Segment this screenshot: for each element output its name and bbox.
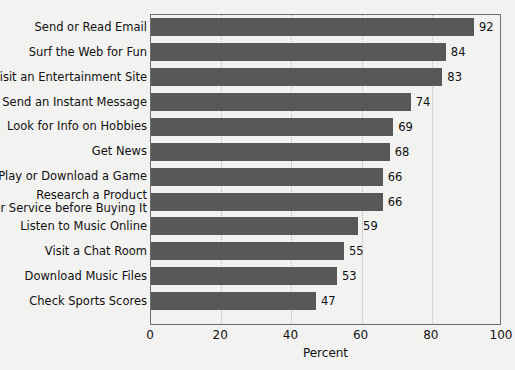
x-tick-label: 80	[423, 327, 438, 343]
category-label: Send or Read Email	[35, 14, 148, 40]
category-label-line: Visit a Chat Room	[45, 245, 147, 258]
bar	[151, 118, 393, 136]
bar-row: Check Sports Scores47	[151, 288, 500, 314]
category-label-line: Check Sports Scores	[29, 295, 147, 308]
bar-row: Look for Info on Hobbies69	[151, 114, 500, 140]
bar-row: Research a Productor Service before Buyi…	[151, 189, 500, 215]
bar-value-label: 66	[388, 193, 403, 211]
bar	[151, 292, 316, 310]
bar-row: Visit an Entertainment Site83	[151, 64, 500, 90]
x-tick-label: 100	[490, 327, 513, 343]
bar	[151, 143, 390, 161]
category-label: Look for Info on Hobbies	[7, 114, 147, 140]
x-tick-label: 60	[353, 327, 368, 343]
x-tick-label: 40	[283, 327, 298, 343]
bar-value-label: 84	[451, 43, 466, 61]
category-label-line: Download Music Files	[25, 270, 147, 283]
category-label-line: Visit an Entertainment Site	[0, 71, 147, 84]
bar-value-label: 83	[447, 68, 462, 86]
x-axis-tick-labels: 020406080100	[150, 327, 501, 345]
bar	[151, 267, 337, 285]
bar	[151, 193, 383, 211]
bar-row: Play or Download a Game66	[151, 164, 500, 190]
bar-value-label: 66	[388, 168, 403, 186]
bar-value-label: 53	[342, 267, 357, 285]
category-label: Listen to Music Online	[20, 213, 147, 239]
category-label-line: Listen to Music Online	[20, 220, 147, 233]
category-label: Visit a Chat Room	[45, 238, 147, 264]
category-label-line: Send an Instant Message	[2, 96, 147, 109]
bar-value-label: 92	[479, 18, 494, 36]
category-label: Send an Instant Message	[2, 89, 147, 115]
category-label-line: Send or Read Email	[35, 21, 148, 34]
bar-value-label: 55	[349, 242, 364, 260]
bar-value-label: 69	[398, 118, 413, 136]
bar	[151, 217, 358, 235]
bar-value-label: 47	[321, 292, 336, 310]
plot-area: Send or Read Email92Surf the Web for Fun…	[150, 14, 501, 325]
bar-row: Send or Read Email92	[151, 14, 500, 40]
category-label-line: Research a Product	[36, 189, 147, 202]
category-label-line: Get News	[92, 145, 147, 158]
bar-value-label: 74	[416, 93, 431, 111]
bar-row: Surf the Web for Fun84	[151, 39, 500, 65]
bar-value-label: 68	[395, 143, 410, 161]
category-label-line: Look for Info on Hobbies	[7, 120, 147, 133]
category-label-line: Play or Download a Game	[0, 170, 147, 183]
category-label: Get News	[92, 139, 147, 165]
bar	[151, 168, 383, 186]
bar-chart-figure: Send or Read Email92Surf the Web for Fun…	[0, 0, 515, 370]
bar-row: Listen to Music Online59	[151, 213, 500, 239]
category-label: Research a Productor Service before Buyi…	[0, 189, 147, 215]
bar-row: Visit a Chat Room55	[151, 238, 500, 264]
bar	[151, 18, 474, 36]
x-tick-label: 20	[213, 327, 228, 343]
bar-value-label: 59	[363, 217, 378, 235]
category-label: Download Music Files	[25, 263, 147, 289]
x-tick-label: 0	[146, 327, 154, 343]
category-label: Check Sports Scores	[29, 288, 147, 314]
category-label-line: Surf the Web for Fun	[29, 46, 147, 59]
bar-row: Download Music Files53	[151, 263, 500, 289]
bar	[151, 43, 446, 61]
category-label: Play or Download a Game	[0, 164, 147, 190]
bar-row: Get News68	[151, 139, 500, 165]
bar	[151, 93, 411, 111]
x-axis-title: Percent	[150, 346, 501, 360]
category-label: Visit an Entertainment Site	[0, 64, 147, 90]
bar	[151, 242, 344, 260]
bar-row: Send an Instant Message74	[151, 89, 500, 115]
bar	[151, 68, 442, 86]
category-label: Surf the Web for Fun	[29, 39, 147, 65]
